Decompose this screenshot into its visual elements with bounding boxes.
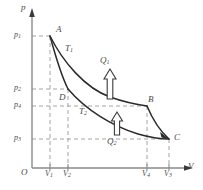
isotherm-label-t1: T1 [65,44,73,53]
isotherm-label-t1-sub: 1 [70,47,73,53]
heat-label-q1-sub: 1 [107,59,110,65]
point-label-a: A [56,25,62,34]
origin-label: O [21,168,28,177]
tick-label-v4-sub: 4 [147,172,150,178]
tick-label-p4-sub: 4 [18,103,21,109]
y-axis-arrowhead [29,8,35,17]
heat-label-q1: Q1 [100,56,110,65]
heat-label-q2-sub: 2 [114,140,117,146]
point-label-b: B [148,95,154,104]
adiabat-curve-bc [147,106,169,139]
tick-label-p2: p2 [14,84,21,92]
tick-label-v4: V4 [142,170,150,178]
diagram-canvas [0,0,203,190]
point-label-c: C [174,133,180,142]
tick-label-p1-sub: 1 [18,33,21,39]
tick-label-v1-sub: 1 [50,172,53,178]
heat-label-q2: Q2 [107,137,117,146]
y-axis-label: p [21,3,26,12]
tick-label-v3-sub: 3 [169,172,172,178]
tick-label-v1: V1 [45,170,53,178]
pv-diagram: p V O p1 p2 p4 p3 V1 V2 V4 V3 A B C D T1… [0,0,203,190]
tick-label-p1: p1 [14,31,21,39]
isotherm-label-t2-sub: 2 [84,110,87,116]
isotherm-label-t2: T2 [79,107,87,116]
heat-arrow-q1-icon [104,69,116,99]
tick-label-p3: p3 [14,134,21,142]
tick-label-v3: V3 [164,170,172,178]
tick-label-p3-sub: 3 [18,136,21,142]
tick-label-v2-sub: 2 [68,172,71,178]
tick-label-v2: V2 [63,170,71,178]
x-axis-label: V [188,162,194,171]
tick-label-p2-sub: 2 [18,86,21,92]
tick-label-p4: p4 [14,101,21,109]
point-label-d: D [59,93,66,102]
